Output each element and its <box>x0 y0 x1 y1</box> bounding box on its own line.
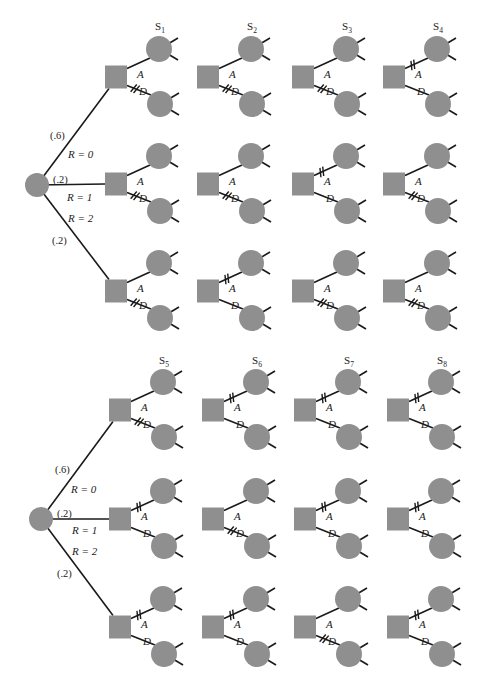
decision-node-icon <box>387 508 409 531</box>
chance-node-icon <box>334 91 360 117</box>
decision-node-icon <box>105 280 127 303</box>
chance-node-icon <box>150 586 176 612</box>
chance-node-icon <box>425 198 451 224</box>
branch-label-d: D <box>235 635 244 647</box>
probability-label: (.6) <box>55 464 70 476</box>
probability-label: (.2) <box>52 235 67 247</box>
decision-node-icon <box>109 399 131 422</box>
branch-accept <box>316 608 339 619</box>
root-edge-r0 <box>37 89 109 186</box>
strategy-label: S7 <box>344 354 354 369</box>
branch-label-d: D <box>142 527 151 539</box>
branch-label-a: A <box>233 401 241 413</box>
branch-label-a: A <box>228 68 236 80</box>
decision-node-icon <box>292 280 314 303</box>
branch-label-a: A <box>140 401 148 413</box>
hash-stroke <box>320 168 321 177</box>
chance-node-icon <box>151 641 177 667</box>
decision-node-icon <box>202 508 224 531</box>
decision-node-icon <box>294 508 316 531</box>
chance-node-icon <box>425 305 451 331</box>
branch-accept <box>131 500 154 511</box>
chance-node-icon <box>244 424 270 450</box>
branch-label-d: D <box>416 85 425 97</box>
chance-node-icon <box>335 478 361 504</box>
strategy-label: S8 <box>437 354 447 369</box>
branch-label-d: D <box>420 635 429 647</box>
chance-node-icon <box>238 36 264 62</box>
branch-accept <box>219 165 242 176</box>
branch-label-a: A <box>323 68 331 80</box>
branch-label-a: A <box>323 175 331 187</box>
branch-accept <box>405 272 428 283</box>
chance-node-icon <box>424 143 450 169</box>
chance-node-icon <box>428 478 454 504</box>
chance-node-icon <box>238 250 264 276</box>
branch-accept <box>127 165 150 176</box>
root-chance-node-icon <box>29 507 53 531</box>
decision-tree-diagram: (.6)R = 0(.2)R = 1(.2)R = 2S1ADADADS2ADA… <box>0 0 486 683</box>
branch-label-a: A <box>140 510 148 522</box>
outcome-label: R = 2 <box>67 212 94 224</box>
hash-stroke <box>230 611 231 620</box>
hash-stroke <box>322 394 323 403</box>
branch-accept <box>314 165 337 176</box>
hash-stroke <box>230 394 231 403</box>
chance-node-icon <box>424 250 450 276</box>
probability-label: (.2) <box>57 568 72 580</box>
chance-node-icon <box>336 533 362 559</box>
decision-node-icon <box>387 399 409 422</box>
strategy-label: S3 <box>342 20 352 35</box>
branch-label-d: D <box>325 192 334 204</box>
branch-accept <box>314 58 337 69</box>
outcome-label: R = 0 <box>67 148 94 160</box>
hash-stroke <box>322 503 323 512</box>
branch-label-d: D <box>138 192 147 204</box>
chance-node-icon <box>424 36 450 62</box>
hash-stroke <box>137 611 138 620</box>
branch-label-d: D <box>327 527 336 539</box>
branch-accept <box>224 500 247 511</box>
root-edge-r0 <box>41 422 113 520</box>
chance-node-icon <box>151 533 177 559</box>
block-bottom <box>29 369 455 667</box>
chance-node-icon <box>239 305 265 331</box>
chance-node-icon <box>146 36 172 62</box>
chance-node-icon <box>238 143 264 169</box>
branch-label-a: A <box>325 401 333 413</box>
branch-accept <box>405 165 428 176</box>
decision-node-icon <box>109 616 131 639</box>
chance-node-icon <box>429 641 455 667</box>
branch-label-a: A <box>140 618 148 630</box>
branch-label-d: D <box>138 85 147 97</box>
chance-node-icon <box>333 36 359 62</box>
hash-stroke <box>225 275 226 284</box>
chance-node-icon <box>147 305 173 331</box>
branch-label-d: D <box>416 299 425 311</box>
branch-label-d: D <box>325 299 334 311</box>
branch-accept <box>409 391 432 402</box>
decision-node-icon <box>292 173 314 196</box>
edges-layer <box>37 38 461 665</box>
probability-label: (.2) <box>57 508 72 520</box>
chance-node-icon <box>243 586 269 612</box>
chance-node-icon <box>239 198 265 224</box>
decision-node-icon <box>105 173 127 196</box>
decision-node-icon <box>197 66 219 89</box>
chance-node-icon <box>150 369 176 395</box>
chance-node-icon <box>336 641 362 667</box>
chance-node-icon <box>146 143 172 169</box>
branch-accept <box>219 272 242 283</box>
chance-node-icon <box>243 369 269 395</box>
decision-node-icon <box>294 616 316 639</box>
chance-node-icon <box>334 198 360 224</box>
decision-node-icon <box>383 173 405 196</box>
strategy-label: S4 <box>433 20 443 35</box>
branch-label-a: A <box>228 282 236 294</box>
chance-node-icon <box>334 305 360 331</box>
branch-label-d: D <box>230 192 239 204</box>
chance-node-icon <box>333 250 359 276</box>
decision-node-icon <box>294 399 316 422</box>
decision-node-icon <box>383 280 405 303</box>
chance-node-icon <box>151 424 177 450</box>
